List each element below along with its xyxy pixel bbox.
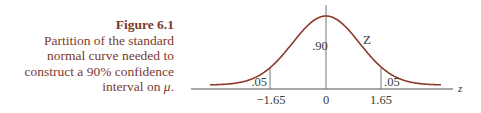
center-area-label: .90: [312, 39, 328, 53]
left-tail-label: .05: [251, 75, 267, 89]
right-tail-label: .05: [384, 75, 400, 89]
curve-label: Z: [363, 32, 371, 47]
tick-label-left: −1.65: [257, 93, 286, 107]
axis-label: z: [457, 82, 463, 94]
tick-label-right: 1.65: [370, 93, 392, 107]
normal-curve-chart: .90 .05 .05 Z z −1.65 0 1.65: [0, 0, 481, 113]
tick-label-center: 0: [323, 93, 329, 107]
